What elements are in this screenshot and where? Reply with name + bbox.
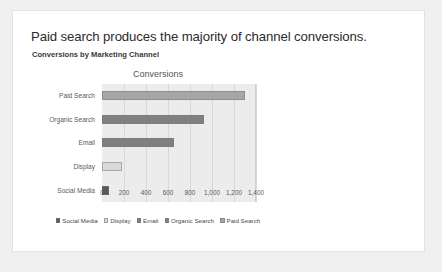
value-tick-label: 1,400	[248, 189, 264, 196]
bar	[102, 115, 204, 124]
legend-item[interactable]: Social Media	[56, 217, 98, 224]
legend-label: Email	[143, 217, 158, 224]
category-label: Paid Search	[33, 84, 99, 108]
legend-item[interactable]: Organic Search	[165, 217, 215, 224]
bar	[102, 91, 245, 100]
legend-label: Organic Search	[171, 217, 214, 224]
slide-subtitle: Conversions by Marketing Channel	[32, 50, 159, 59]
value-tick-label: 1,200	[226, 189, 242, 196]
legend-label: Social Media	[62, 217, 97, 224]
value-tick-label: 1,000	[204, 189, 220, 196]
legend-swatch-icon	[220, 218, 225, 223]
legend-swatch-icon	[137, 218, 142, 223]
value-tick-label: 600	[163, 189, 174, 196]
value-tick-label: 800	[185, 189, 196, 196]
bar-row	[102, 155, 255, 179]
legend-swatch-icon	[104, 218, 109, 223]
value-tick-label: 0	[100, 189, 104, 196]
bar	[102, 162, 122, 171]
legend-label: Display	[110, 217, 130, 224]
bar-series	[102, 84, 255, 202]
value-axis: 02004006008001,0001,2001,400	[102, 189, 256, 201]
chart-title: Conversions	[33, 69, 283, 79]
category-label: Organic Search	[33, 108, 99, 132]
chart-legend: Social MediaDisplayEmailOrganic SearchPa…	[33, 217, 283, 224]
value-tick-label: 200	[119, 189, 130, 196]
slide-title: Paid search produces the majority of cha…	[31, 29, 367, 44]
plot-wrapper: Paid SearchOrganic SearchEmailDisplaySoc…	[33, 84, 283, 202]
bar-chart: Conversions Paid SearchOrganic SearchEma…	[33, 69, 283, 247]
legend-swatch-icon	[165, 218, 170, 223]
legend-item[interactable]: Paid Search	[220, 217, 260, 224]
bar-row	[102, 108, 255, 132]
legend-swatch-icon	[56, 218, 61, 223]
bar	[102, 138, 174, 147]
category-label: Display	[33, 155, 99, 179]
category-axis: Paid SearchOrganic SearchEmailDisplaySoc…	[33, 84, 99, 202]
legend-item[interactable]: Display	[104, 217, 131, 224]
category-label: Email	[33, 131, 99, 155]
legend-label: Paid Search	[227, 217, 261, 224]
slide-card: Paid search produces the majority of cha…	[12, 10, 425, 252]
bar-row	[102, 131, 255, 155]
category-label: Social Media	[33, 178, 99, 202]
legend-item[interactable]: Email	[137, 217, 159, 224]
bar-row	[102, 84, 255, 108]
gridline	[256, 84, 257, 202]
value-tick-label: 400	[141, 189, 152, 196]
plot-area	[102, 84, 256, 202]
